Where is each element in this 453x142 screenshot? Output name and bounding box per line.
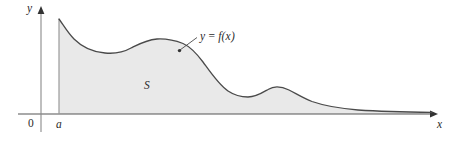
area-under-curve-figure bbox=[0, 0, 453, 142]
x-tick-label-a: a bbox=[56, 119, 62, 131]
y-axis-label: y bbox=[27, 3, 32, 15]
region-label-S: S bbox=[144, 80, 150, 92]
shaded-region-S bbox=[59, 19, 432, 114]
curve-label-leader-dot bbox=[178, 49, 181, 52]
y-axis-arrowhead bbox=[38, 6, 45, 14]
figure-container: y x 0 a S y = f(x) bbox=[0, 0, 453, 142]
curve-equation-label: y = f(x) bbox=[200, 31, 235, 43]
x-axis-arrowhead bbox=[430, 110, 438, 117]
curve-label-argument: (x) bbox=[222, 30, 235, 42]
x-axis-label: x bbox=[437, 119, 442, 131]
curve-label-equals: = bbox=[205, 30, 218, 42]
origin-label: 0 bbox=[28, 118, 34, 130]
